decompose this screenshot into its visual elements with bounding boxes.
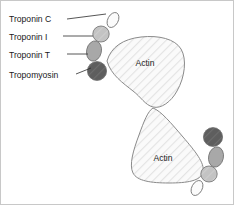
troponin-i-lower bbox=[201, 166, 217, 182]
actin-upper-outline bbox=[107, 37, 184, 108]
label-troponin-c: Troponin C bbox=[9, 14, 51, 24]
leader-troponin-c bbox=[67, 14, 106, 19]
tropomyosin-lower bbox=[203, 128, 222, 147]
troponin-t-upper bbox=[85, 39, 104, 62]
protein-complex-figure: Actin Actin Troponin C Troponin I Tropo bbox=[0, 0, 234, 205]
actin-upper-label: Actin bbox=[135, 58, 154, 68]
label-tropomyosin: Tropomyosin bbox=[9, 70, 59, 80]
diagram-canvas: Actin Actin Troponin C Troponin I Tropo bbox=[1, 1, 234, 205]
actin-lower-outline bbox=[131, 108, 203, 183]
troponin-c-upper bbox=[105, 10, 122, 29]
label-troponin-i: Troponin I bbox=[9, 32, 47, 42]
label-troponin-t: Troponin T bbox=[9, 50, 51, 60]
troponin-t-lower bbox=[207, 145, 226, 168]
troponin-i-upper bbox=[93, 26, 109, 42]
actin-lower-label: Actin bbox=[153, 153, 172, 163]
tropomyosin-upper bbox=[87, 62, 106, 81]
actin-lower: Actin bbox=[131, 108, 203, 183]
actin-upper: Actin bbox=[107, 37, 184, 108]
